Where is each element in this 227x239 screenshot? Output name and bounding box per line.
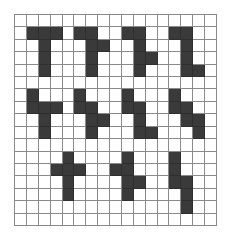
- grid-cell-empty: [158, 127, 170, 139]
- grid-cell-empty: [158, 139, 170, 151]
- grid-cell-empty: [193, 40, 205, 52]
- grid-cell-filled: [122, 89, 134, 101]
- grid-cell-empty: [15, 127, 27, 139]
- grid-cell-empty: [169, 15, 181, 27]
- grid-cell-empty: [86, 201, 98, 213]
- grid-cell-filled: [39, 40, 51, 52]
- grid-cell-empty: [39, 15, 51, 27]
- grid-cell-empty: [122, 40, 134, 52]
- grid-cell-empty: [98, 201, 110, 213]
- grid-cell-empty: [98, 139, 110, 151]
- grid-cell-empty: [63, 201, 75, 213]
- grid-cell-empty: [193, 77, 205, 89]
- grid-cell-empty: [15, 214, 27, 226]
- grid-cell-empty: [63, 27, 75, 39]
- grid-cell-empty: [146, 201, 158, 213]
- grid-cell-empty: [134, 89, 146, 101]
- grid-cell-filled: [86, 65, 98, 77]
- grid-cell-empty: [74, 65, 86, 77]
- grid-cell-empty: [158, 52, 170, 64]
- grid-cell-empty: [15, 27, 27, 39]
- grid-cell-empty: [51, 176, 63, 188]
- grid-cell-empty: [63, 77, 75, 89]
- grid-cell-empty: [205, 77, 217, 89]
- grid-cell-empty: [15, 77, 27, 89]
- grid-cell-empty: [205, 176, 217, 188]
- grid-cell-empty: [86, 89, 98, 101]
- grid-cell-empty: [205, 114, 217, 126]
- grid-cell-empty: [193, 164, 205, 176]
- grid-cell-empty: [51, 139, 63, 151]
- grid-cell-empty: [15, 164, 27, 176]
- grid-cell-empty: [15, 176, 27, 188]
- grid-cell-empty: [110, 114, 122, 126]
- grid-cell-empty: [63, 139, 75, 151]
- grid-cell-empty: [193, 89, 205, 101]
- grid-cell-empty: [158, 40, 170, 52]
- grid-cell-filled: [122, 152, 134, 164]
- grid-cell-empty: [146, 139, 158, 151]
- grid-cell-empty: [169, 77, 181, 89]
- grid-cell-empty: [27, 114, 39, 126]
- grid-cell-empty: [15, 15, 27, 27]
- grid-cell-empty: [63, 127, 75, 139]
- grid-cell-filled: [193, 114, 205, 126]
- grid-cell-empty: [134, 152, 146, 164]
- grid-cell-filled: [51, 164, 63, 176]
- grid-cell-empty: [158, 89, 170, 101]
- grid-cell-empty: [169, 139, 181, 151]
- grid-cell-empty: [122, 214, 134, 226]
- grid-cell-empty: [51, 40, 63, 52]
- grid-cell-empty: [15, 201, 27, 213]
- grid-cell-empty: [134, 77, 146, 89]
- grid-cell-empty: [51, 189, 63, 201]
- grid-cell-empty: [63, 15, 75, 27]
- grid-cell-empty: [158, 152, 170, 164]
- grid-cell-filled: [122, 176, 134, 188]
- grid-cell-filled: [63, 189, 75, 201]
- grid-cell-empty: [110, 65, 122, 77]
- grid-cell-empty: [51, 52, 63, 64]
- grid-cell-empty: [122, 77, 134, 89]
- grid-cell-filled: [86, 127, 98, 139]
- grid-cell-empty: [146, 27, 158, 39]
- grid-cell-empty: [74, 214, 86, 226]
- hexomino-grid: [14, 14, 217, 226]
- grid-cell-filled: [193, 127, 205, 139]
- grid-cell-filled: [63, 152, 75, 164]
- grid-cell-empty: [110, 214, 122, 226]
- grid-cell-empty: [51, 152, 63, 164]
- grid-cell-empty: [51, 77, 63, 89]
- grid-cell-empty: [193, 139, 205, 151]
- grid-cell-empty: [110, 152, 122, 164]
- grid-cell-empty: [158, 164, 170, 176]
- grid-cell-empty: [146, 15, 158, 27]
- grid-cell-empty: [205, 15, 217, 27]
- grid-cell-empty: [27, 176, 39, 188]
- grid-cell-empty: [74, 176, 86, 188]
- grid-cell-empty: [205, 214, 217, 226]
- grid-cell-filled: [86, 52, 98, 64]
- grid-cell-empty: [205, 139, 217, 151]
- grid-cell-empty: [146, 89, 158, 101]
- grid-cell-empty: [86, 15, 98, 27]
- grid-cell-empty: [51, 127, 63, 139]
- grid-cell-filled: [86, 102, 98, 114]
- grid-cell-filled: [181, 102, 193, 114]
- grid-cell-empty: [110, 201, 122, 213]
- grid-cell-filled: [181, 27, 193, 39]
- grid-cell-empty: [122, 15, 134, 27]
- grid-cell-empty: [98, 152, 110, 164]
- grid-cell-empty: [63, 40, 75, 52]
- grid-cell-empty: [158, 214, 170, 226]
- grid-cell-empty: [110, 40, 122, 52]
- grid-cell-filled: [74, 27, 86, 39]
- grid-cell-empty: [86, 176, 98, 188]
- grid-cell-empty: [98, 214, 110, 226]
- grid-cell-empty: [39, 201, 51, 213]
- grid-cell-empty: [27, 65, 39, 77]
- grid-cell-empty: [27, 189, 39, 201]
- grid-cell-empty: [74, 189, 86, 201]
- grid-cell-filled: [181, 65, 193, 77]
- grid-cell-empty: [110, 15, 122, 27]
